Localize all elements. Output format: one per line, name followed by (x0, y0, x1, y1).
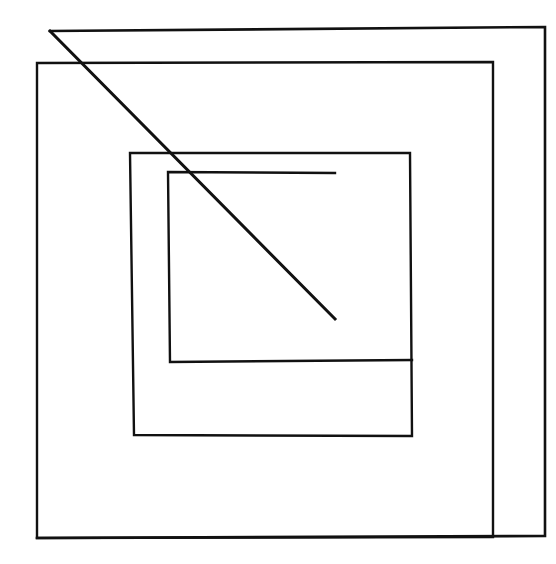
figure-canvas (0, 0, 556, 564)
canvas-background (0, 0, 556, 564)
nested-squares-drawing (0, 0, 556, 564)
